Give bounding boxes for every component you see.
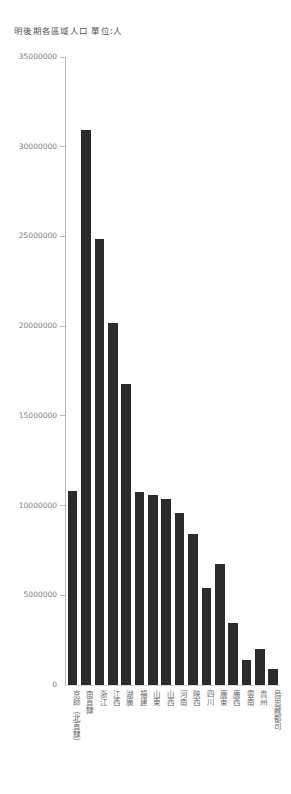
bar [255,649,265,685]
bar [202,588,212,685]
y-axis-tick-label: 10000000 [19,501,57,510]
bar [188,534,198,685]
x-axis-label: 南直隸 [79,690,92,714]
bar [148,495,158,685]
x-axis-labels: 京師（北直隸）南直隸浙江江西湖廣福建山東山西河南陝西四川廣東廣西雲南貴州烏思藏都… [66,690,280,790]
bar [268,669,278,685]
x-axis-label: 廣東 [213,690,226,706]
bars-layer [66,57,280,685]
x-axis-label: 京師（北直隸） [66,690,79,746]
bar [215,564,225,685]
bar [228,623,238,685]
bar [161,499,171,685]
x-axis-label: 山東 [146,690,159,706]
x-axis-label: 江西 [106,690,119,706]
x-axis-label: 浙江 [93,690,106,706]
bar [95,239,105,685]
x-axis-label: 陝西 [186,690,199,706]
y-axis-tick-label: 35000000 [19,52,57,61]
bar-chart-figure: 明後期各區域人口 單位:人 35000000300000002500000020… [0,0,291,794]
x-axis-label: 烏思藏都司 [267,690,280,730]
x-axis-label: 湖廣 [120,690,133,706]
x-axis-line [65,685,280,686]
x-axis-label: 山西 [160,690,173,706]
bar [68,491,78,685]
bar [175,513,185,685]
y-axis-tick-label: 30000000 [19,142,57,151]
x-axis-label: 福建 [133,690,146,706]
x-axis-label: 河南 [173,690,186,706]
y-axis-tick-label: 15000000 [19,411,57,420]
bar [242,660,252,685]
y-axis-tick-label: 5000000 [24,590,57,599]
y-axis-tick-label: 25000000 [19,231,57,240]
y-axis-ticks: 3500000030000000250000002000000015000000… [0,57,65,685]
bar [108,323,118,685]
x-axis-label: 四川 [200,690,213,706]
x-axis-label: 雲南 [240,690,253,706]
y-axis-tick-label: 20000000 [19,321,57,330]
x-axis-label: 貴州 [253,690,266,706]
x-axis-label: 廣西 [227,690,240,706]
bar [81,130,91,685]
bar [135,492,145,685]
bar [121,384,131,685]
y-axis-tick-label: 0 [52,680,57,689]
chart-title: 明後期各區域人口 單位:人 [14,24,122,36]
